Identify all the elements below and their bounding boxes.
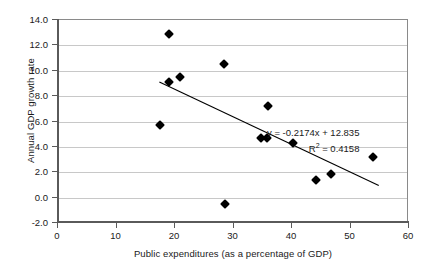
- x-tick-label: 40: [271, 230, 311, 241]
- gridline: [58, 96, 407, 97]
- x-tick-label: 30: [213, 230, 253, 241]
- r-squared-label: R: [309, 143, 316, 154]
- x-tick-mark: [174, 223, 175, 228]
- y-tick-mark: [52, 44, 57, 45]
- x-tick-label: 20: [154, 230, 194, 241]
- x-tick-mark: [233, 223, 234, 228]
- y-tick-mark: [52, 121, 57, 122]
- y-tick-label: 12.0: [2, 39, 48, 50]
- x-tick-label: 10: [96, 230, 136, 241]
- y-tick-label: 4.0: [2, 140, 48, 151]
- y-tick-mark: [52, 95, 57, 96]
- x-tick-mark: [57, 223, 58, 228]
- y-tick-mark: [52, 146, 57, 147]
- trendline-equation-annotation: y = -0.2174x + 12.835 R2 = 0.4158: [267, 126, 359, 155]
- x-tick-mark: [408, 223, 409, 228]
- y-tick-label: 14.0: [2, 14, 48, 25]
- y-tick-label: 0.0: [2, 191, 48, 202]
- y-tick-mark: [52, 197, 57, 198]
- y-tick-label: 10.0: [2, 64, 48, 75]
- r-squared-value: = 0.4158: [320, 143, 360, 154]
- data-point: [175, 72, 185, 82]
- y-tick-label: -2.0: [2, 217, 48, 228]
- x-tick-label: 60: [388, 230, 428, 241]
- gridline: [58, 172, 407, 173]
- y-tick-label: 6.0: [2, 115, 48, 126]
- data-point: [164, 77, 174, 87]
- x-tick-mark: [291, 223, 292, 228]
- scatter-chart: Annual GDP growth rate -2.00.02.04.06.08…: [0, 0, 428, 269]
- x-tick-label: 50: [330, 230, 370, 241]
- gridline: [58, 71, 407, 72]
- regression-equation-text: y = -0.2174x + 12.835: [267, 126, 359, 139]
- y-tick-label: 2.0: [2, 166, 48, 177]
- y-tick-label: 8.0: [2, 90, 48, 101]
- data-point: [368, 152, 378, 162]
- data-point: [263, 101, 273, 111]
- x-tick-mark: [350, 223, 351, 228]
- r-squared-text: R2 = 0.4158: [267, 139, 359, 155]
- data-point: [311, 175, 321, 185]
- plot-area: [57, 19, 408, 222]
- data-point: [326, 169, 336, 179]
- y-tick-mark: [52, 171, 57, 172]
- y-tick-mark: [52, 19, 57, 20]
- gridline: [58, 122, 407, 123]
- x-axis-title: Public expenditures (as a percentage of …: [57, 248, 409, 259]
- y-tick-mark: [52, 70, 57, 71]
- gridline: [58, 198, 407, 199]
- gridline: [58, 45, 407, 46]
- data-point: [164, 29, 174, 39]
- y-axis-line: [57, 19, 59, 223]
- x-tick-mark: [116, 223, 117, 228]
- data-point: [220, 199, 230, 209]
- data-point: [219, 59, 229, 69]
- x-tick-label: 0: [37, 230, 77, 241]
